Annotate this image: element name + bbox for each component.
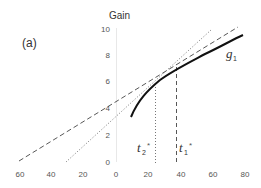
x-tick-0: 0	[114, 170, 119, 179]
x-tick-labels: 60 40 20 0 20 40 60 80	[16, 170, 250, 179]
panel-label: (a)	[22, 36, 37, 50]
y-tick-6: 6	[106, 77, 111, 86]
x-tick-neg40: 40	[47, 170, 56, 179]
tangent-line-t1	[19, 27, 238, 161]
y-tick-labels: 10 8 6 4 2 0	[101, 25, 110, 167]
t1-star-sup: *	[189, 141, 192, 150]
g1-label: g	[226, 46, 233, 61]
chart: Gain (a) 10 8 6 4 2 0 60 40 20 0 20 40 6…	[0, 0, 261, 188]
y-tick-0: 0	[106, 158, 111, 167]
t1-star-label: t	[179, 140, 183, 155]
y-axis-label: Gain	[109, 10, 130, 21]
g1-label-sub: 1	[233, 55, 237, 62]
y-tick-8: 8	[106, 51, 111, 60]
x-tick-neg20: 20	[79, 170, 88, 179]
x-tick-neg60: 60	[16, 170, 25, 179]
t2-star-label: t	[137, 140, 141, 155]
t2-star-sub: 2	[142, 149, 146, 156]
x-tick-80: 80	[241, 170, 250, 179]
y-tick-2: 2	[106, 131, 111, 140]
x-tick-60: 60	[209, 170, 218, 179]
x-tick-20: 20	[144, 170, 153, 179]
y-tick-10: 10	[101, 25, 110, 34]
x-tick-40: 40	[177, 170, 186, 179]
t2-star-sup: *	[147, 141, 150, 150]
t1-star-sub: 1	[184, 149, 188, 156]
